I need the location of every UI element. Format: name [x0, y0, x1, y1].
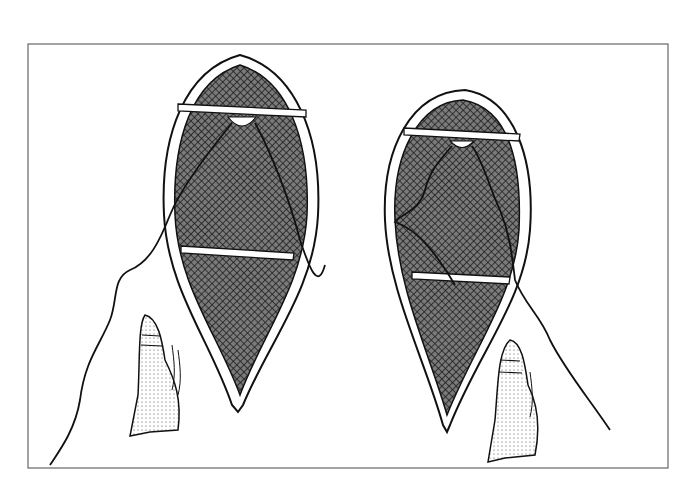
snowshoe-illustration [0, 0, 689, 495]
left-moccasin [130, 315, 180, 436]
picture-frame [28, 44, 668, 468]
left-snowshoe [50, 55, 325, 465]
right-moccasin [488, 340, 538, 462]
